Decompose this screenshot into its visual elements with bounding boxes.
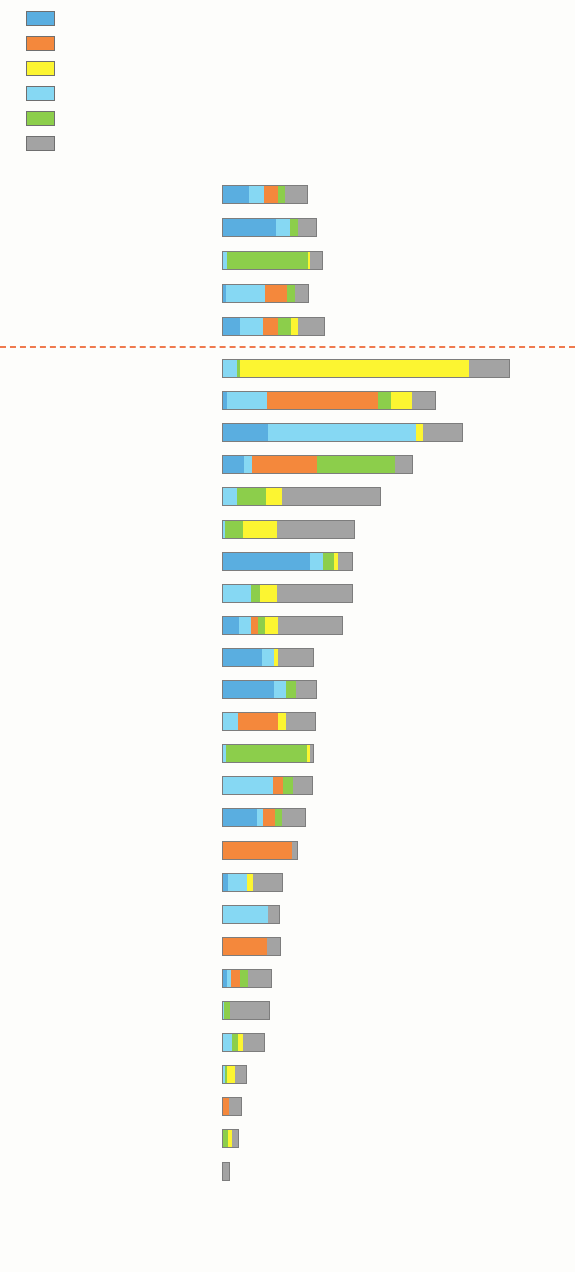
bar-segment-other <box>278 648 314 667</box>
stacked-bar <box>222 616 343 635</box>
bar-segment-other <box>469 359 510 378</box>
chart-row <box>0 997 575 1023</box>
stacked-bar <box>222 648 314 667</box>
bar-segment-electronics <box>222 552 310 571</box>
stacked-bar <box>222 185 308 204</box>
stacked-bar <box>222 284 309 303</box>
bar-segment-other <box>229 1097 242 1116</box>
bar-segment-electronics <box>222 648 262 667</box>
stacked-bar <box>222 873 283 892</box>
bar-segment-other <box>267 937 281 956</box>
stacked-bar <box>222 1001 270 1020</box>
bar-segment-finance <box>226 284 265 303</box>
chart-row <box>0 1093 575 1119</box>
bar-segment-other <box>286 712 316 731</box>
stacked-bar <box>222 552 353 571</box>
bar-segment-finance <box>222 359 237 378</box>
bar-segment-other <box>310 251 323 270</box>
chart-row <box>0 740 575 766</box>
bar-segment-food <box>290 218 298 237</box>
bar-segment-textiles <box>263 317 277 336</box>
bar-segment-tourism <box>278 712 286 731</box>
chart-row <box>0 1125 575 1151</box>
bar-segment-other <box>282 808 306 827</box>
bar-segment-textiles <box>267 391 379 410</box>
stacked-bar <box>222 317 325 336</box>
chart-row <box>0 516 575 542</box>
bar-segment-other <box>295 284 309 303</box>
chart-row <box>0 933 575 959</box>
stacked-bar <box>222 391 436 410</box>
chart-row <box>0 355 575 381</box>
bar-segment-finance <box>310 552 323 571</box>
bar-segment-finance <box>249 185 265 204</box>
chart-row <box>0 580 575 606</box>
bar-segment-food <box>226 744 307 763</box>
bar-segment-finance <box>240 317 263 336</box>
bar-segment-tourism <box>266 487 282 506</box>
chart-row <box>0 181 575 207</box>
stacked-bar <box>222 455 413 474</box>
bar-segment-finance <box>274 680 286 699</box>
chart-row <box>0 1029 575 1055</box>
bar-segment-textiles <box>238 712 278 731</box>
bar-segment-other <box>298 317 325 336</box>
bar-segment-tourism <box>227 1065 234 1084</box>
stacked-bar <box>222 520 355 539</box>
bar-segment-finance <box>222 1033 232 1052</box>
chart-row <box>0 772 575 798</box>
bar-segment-other <box>338 552 353 571</box>
stacked-bar <box>222 680 317 699</box>
stacked-bar <box>222 841 298 860</box>
bar-segment-electronics <box>222 680 274 699</box>
bar-segment-other <box>268 905 280 924</box>
bar-segment-other <box>292 841 298 860</box>
bar-segment-other <box>282 487 381 506</box>
chart-row <box>0 1158 575 1184</box>
chart-row <box>0 214 575 240</box>
bar-segment-finance <box>222 487 237 506</box>
stacked-bar <box>222 1065 247 1084</box>
bar-segment-other <box>277 584 353 603</box>
bar-segment-textiles <box>222 1097 229 1116</box>
bar-segment-textiles <box>264 185 278 204</box>
bar-segment-food <box>287 284 295 303</box>
bar-segment-electronics <box>222 455 244 474</box>
chart-row <box>0 644 575 670</box>
bar-segment-other <box>278 616 343 635</box>
bar-segment-other <box>235 1065 247 1084</box>
bar-segment-finance <box>222 712 238 731</box>
bar-segment-other <box>285 185 307 204</box>
chart-row <box>0 612 575 638</box>
bar-segment-electronics <box>222 616 239 635</box>
bar-segment-textiles <box>265 284 287 303</box>
bar-segment-food <box>283 776 293 795</box>
bar-segment-other <box>395 455 413 474</box>
bar-segment-finance <box>262 648 274 667</box>
bar-segment-food <box>240 969 248 988</box>
bar-segment-other <box>222 1162 230 1181</box>
bar-segment-textiles <box>222 841 292 860</box>
stacked-bar <box>222 808 306 827</box>
bar-segment-other <box>243 1033 265 1052</box>
bar-segment-textiles <box>252 455 317 474</box>
bar-segment-textiles <box>231 969 240 988</box>
stacked-bar <box>222 487 381 506</box>
bar-segment-electronics <box>222 317 240 336</box>
chart-row <box>0 548 575 574</box>
bar-segment-electronics <box>222 808 257 827</box>
stacked-bar <box>222 905 280 924</box>
stacked-bar <box>222 1162 230 1181</box>
stacked-bar <box>222 1129 239 1148</box>
bar-segment-textiles <box>222 937 267 956</box>
bar-segment-food <box>323 552 334 571</box>
bar-segment-tourism <box>291 317 298 336</box>
stacked-bar-chart <box>0 0 575 1272</box>
bar-segment-other <box>296 680 317 699</box>
stacked-bar <box>222 423 463 442</box>
stacked-bar <box>222 251 323 270</box>
bar-segment-finance <box>222 584 251 603</box>
bar-segment-tourism <box>240 359 468 378</box>
stacked-bar <box>222 1097 242 1116</box>
chart-row <box>0 313 575 339</box>
